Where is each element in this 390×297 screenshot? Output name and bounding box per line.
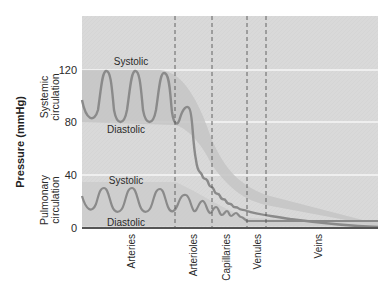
pulmonary-diastolic-label: Diastolic [107,217,145,228]
ytick-40: 40 [65,169,77,181]
region-label-venules: Venules [252,234,263,270]
ytick-80: 80 [65,116,77,128]
region-label-arterioles: Arterioles [188,234,199,276]
region-label-arteries: Arteries [126,234,137,268]
blood-pressure-chart: 120 80 40 0 Systemic circulation Pulmona… [0,0,390,297]
pulmonary-label-line2: circulation [49,176,61,223]
ytick-0: 0 [71,222,77,234]
ytick-120: 120 [59,64,77,76]
systemic-label-line2: circulation [49,73,61,120]
pulmonary-systolic-label: Systolic [109,175,143,186]
y-axis-label: Pressure (mmHg) [14,96,26,188]
region-label-veins: Veins [313,234,324,258]
systemic-diastolic-label: Diastolic [107,124,145,135]
systemic-systolic-label: Systolic [114,56,148,67]
region-label-capillaries: Capillaries [221,234,232,281]
